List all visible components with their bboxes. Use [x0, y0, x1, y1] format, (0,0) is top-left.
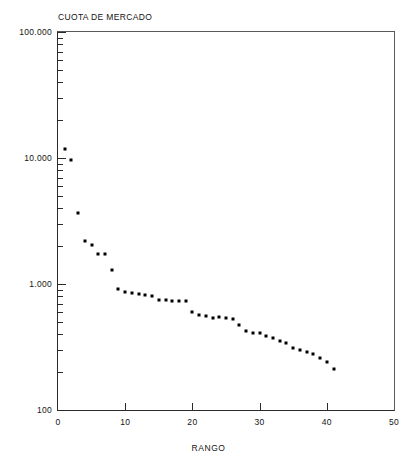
y-axis-tick-minor: [58, 208, 63, 209]
x-axis-tick-major: [192, 403, 193, 410]
y-axis-tick-major: [58, 32, 66, 33]
data-point: [63, 147, 66, 150]
data-point: [198, 313, 201, 316]
y-axis-tick-minor: [58, 196, 63, 197]
y-axis-tick-minor: [58, 120, 63, 121]
y-axis-tick-minor: [58, 290, 63, 291]
data-point: [225, 316, 228, 319]
y-axis-tick-label: 100.000: [19, 27, 52, 37]
y-axis-tick-minor: [58, 304, 63, 305]
x-axis-tick-major: [125, 403, 126, 410]
data-point: [70, 158, 73, 161]
data-point: [325, 361, 328, 364]
y-axis-tick-minor: [58, 224, 63, 225]
x-axis-tick-label: 30: [255, 417, 265, 427]
y-axis-tick-minor: [58, 38, 63, 39]
y-axis-tick-minor: [58, 296, 63, 297]
y-axis-tick-major: [58, 158, 66, 159]
x-axis-tick-label: 20: [187, 417, 197, 427]
plot-area: 100.00010.0001.00010001020304050: [57, 31, 395, 411]
data-point: [144, 293, 147, 296]
x-axis-tick-label: 50: [389, 417, 399, 427]
x-axis-tick-major: [260, 403, 261, 410]
x-axis-tick-major: [327, 403, 328, 410]
y-axis-tick-minor: [58, 334, 63, 335]
data-point: [245, 330, 248, 333]
data-point: [117, 287, 120, 290]
y-axis-tick-minor: [58, 60, 63, 61]
y-axis-tick-minor: [58, 70, 63, 71]
chart-title: CUOTA DE MERCADO: [58, 12, 152, 22]
data-point: [278, 340, 281, 343]
data-point: [305, 350, 308, 353]
data-point: [164, 299, 167, 302]
x-axis-tick-label: 10: [120, 417, 130, 427]
data-point: [272, 337, 275, 340]
data-point: [292, 347, 295, 350]
data-point: [231, 317, 234, 320]
y-axis-tick-minor: [58, 52, 63, 53]
data-points-layer: [58, 32, 394, 410]
data-point: [151, 295, 154, 298]
data-point: [298, 348, 301, 351]
y-axis-tick-minor: [58, 178, 63, 179]
y-axis-tick-minor: [58, 164, 63, 165]
data-point: [191, 310, 194, 313]
data-point: [171, 300, 174, 303]
data-point: [83, 239, 86, 242]
data-point: [312, 352, 315, 355]
data-point: [251, 331, 254, 334]
data-point: [285, 342, 288, 345]
data-point: [177, 300, 180, 303]
data-point: [124, 291, 127, 294]
y-axis-tick-minor: [58, 372, 63, 373]
data-point: [137, 292, 140, 295]
data-point: [319, 356, 322, 359]
y-axis-tick-minor: [58, 322, 63, 323]
y-axis-tick-label: 100: [37, 405, 52, 415]
y-axis-tick-minor: [58, 170, 63, 171]
data-point: [157, 298, 160, 301]
data-point: [218, 315, 221, 318]
y-axis-tick-minor: [58, 186, 63, 187]
data-point: [104, 253, 107, 256]
data-point: [110, 269, 113, 272]
data-point: [77, 212, 80, 215]
y-axis-tick-major: [58, 410, 66, 411]
y-axis-tick-minor: [58, 44, 63, 45]
data-point: [90, 243, 93, 246]
y-axis-tick-minor: [58, 312, 63, 313]
x-axis-tick-label: 0: [55, 417, 60, 427]
y-axis-tick-major: [58, 284, 66, 285]
y-axis-tick-minor: [58, 246, 63, 247]
x-axis-title: RANGO: [0, 443, 417, 453]
data-point: [204, 314, 207, 317]
y-axis-tick-minor: [58, 98, 63, 99]
data-point: [238, 324, 241, 327]
y-axis-tick-minor: [58, 350, 63, 351]
data-point: [97, 253, 100, 256]
data-point: [130, 291, 133, 294]
y-axis-tick-minor: [58, 82, 63, 83]
chart-container: CUOTA DE MERCADO 100.00010.0001.00010001…: [0, 0, 417, 469]
data-point: [265, 334, 268, 337]
x-axis-tick-label: 40: [322, 417, 332, 427]
data-point: [184, 300, 187, 303]
data-point: [332, 368, 335, 371]
data-point: [258, 331, 261, 334]
data-point: [211, 316, 214, 319]
y-axis-tick-label: 10.000: [24, 153, 52, 163]
y-axis-tick-label: 1.000: [29, 279, 52, 289]
